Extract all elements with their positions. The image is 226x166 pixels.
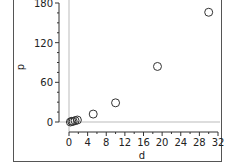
x-tick-label: 4 bbox=[84, 137, 90, 148]
y-axis: 060120180 bbox=[34, 0, 59, 128]
y-tick-label: 180 bbox=[34, 0, 53, 9]
y-tick-label: 120 bbox=[34, 38, 53, 49]
x-tick-label: 0 bbox=[66, 137, 72, 148]
y-tick-label: 60 bbox=[40, 77, 53, 88]
y-axis-label: p bbox=[15, 64, 26, 70]
y-tick-label: 0 bbox=[47, 117, 53, 128]
x-tick-label: 24 bbox=[174, 137, 187, 148]
scatter-plot: 060120180 048121620242832 d p bbox=[0, 0, 226, 166]
x-tick-label: 20 bbox=[156, 137, 169, 148]
x-tick-label: 16 bbox=[137, 137, 150, 148]
data-point-marker bbox=[112, 99, 120, 107]
x-tick-label: 12 bbox=[119, 137, 132, 148]
data-point-marker bbox=[89, 110, 97, 118]
x-tick-label: 28 bbox=[193, 137, 206, 148]
x-tick-label: 32 bbox=[212, 137, 225, 148]
data-point-marker bbox=[205, 8, 213, 16]
data-points bbox=[66, 8, 212, 126]
x-tick-label: 8 bbox=[103, 137, 109, 148]
reference-lines bbox=[59, 0, 220, 132]
data-point-marker bbox=[153, 62, 161, 70]
x-axis: 048121620242832 bbox=[66, 132, 225, 148]
x-axis-label: d bbox=[139, 150, 145, 161]
